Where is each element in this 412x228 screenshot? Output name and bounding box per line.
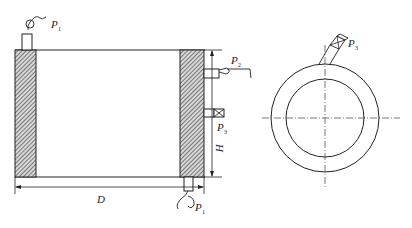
label-p1-bottom-sub: 1 xyxy=(202,209,205,215)
label-p2-sub: 2 xyxy=(238,62,241,68)
sensor-p3-mount xyxy=(204,109,214,117)
label-p1-top-sub: 1 xyxy=(58,26,61,32)
label-p3-top-sub: 3 xyxy=(355,45,358,51)
sensor-p2-wire xyxy=(227,69,251,78)
side-view: P 1 P 2 P 3 H P 1 D xyxy=(15,17,251,215)
top-view: P 3 xyxy=(262,34,400,188)
sensor-p2 xyxy=(204,69,219,78)
label-diameter: D xyxy=(96,193,105,205)
dim-d-arrow-right xyxy=(198,185,204,189)
diagram-canvas: P 1 P 2 P 3 H P 1 D xyxy=(0,0,412,228)
label-p1-bottom: P xyxy=(194,201,202,213)
right-wall xyxy=(180,50,204,177)
dim-d-arrow-left xyxy=(15,185,21,189)
label-height: H xyxy=(214,143,226,153)
sensor-p1-top-wire-loop xyxy=(26,20,34,28)
dim-h-arrow-bottom xyxy=(210,171,214,177)
label-p3-top: P xyxy=(347,37,355,49)
sensor-p3-top-stem-right xyxy=(330,49,339,64)
label-p1-top: P xyxy=(50,18,58,30)
label-p3-side: P xyxy=(216,121,224,133)
label-p2: P xyxy=(230,54,238,66)
sensor-p1-top xyxy=(22,34,32,50)
dim-h-arrow-top xyxy=(210,50,214,56)
sensor-p3-top-stem-left xyxy=(319,45,330,64)
left-wall xyxy=(15,50,36,177)
sensor-p1-bottom xyxy=(184,177,193,191)
sensor-p1-bottom-wire xyxy=(177,191,194,209)
label-p3-side-sub: 3 xyxy=(224,129,227,135)
